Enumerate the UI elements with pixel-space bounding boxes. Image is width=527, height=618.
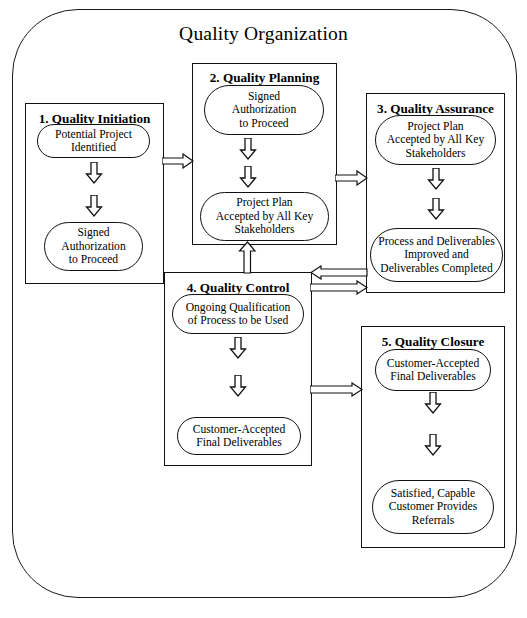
phase-title-quality-closure: 5. Quality Closure — [362, 335, 504, 349]
connector-control-to-closure — [310, 382, 363, 397]
node-signed-authorization-to-proceed-planning[interactable]: Signed Authorization to Proceed — [204, 85, 324, 135]
arrow-down-initiation-b — [85, 195, 103, 217]
node-process-and-deliverables-improved[interactable]: Process and Deliverables Improved and De… — [370, 228, 503, 282]
arrow-down-closure-a — [424, 392, 442, 414]
node-project-plan-accepted-assurance[interactable]: Project Plan Accepted by All Key Stakeho… — [375, 115, 496, 165]
arrow-down-control-b — [229, 375, 247, 397]
node-label: Potential Project Identified — [44, 128, 143, 155]
connector-control-to-planning — [238, 241, 257, 274]
node-satisfied-capable-customer-provides-referrals[interactable]: Satisfied, Capable Customer Provides Ref… — [372, 480, 494, 534]
node-label: Project Plan Accepted by All Key Stakeho… — [382, 120, 489, 160]
connector-planning-to-assurance — [335, 170, 368, 186]
node-project-plan-accepted-planning[interactable]: Project Plan Accepted by All Key Stakeho… — [200, 192, 329, 241]
node-label: Process and Deliverables Improved and De… — [377, 235, 496, 275]
node-label: Project Plan Accepted by All Key Stakeho… — [207, 196, 322, 236]
arrow-down-control-a — [229, 337, 247, 359]
node-label: Signed Authorization to Proceed — [51, 226, 136, 266]
arrow-down-initiation-a — [85, 162, 103, 184]
arrow-down-assurance-a — [427, 168, 445, 190]
arrow-down-planning-a — [239, 138, 257, 160]
diagram-title: Quality Organization — [0, 24, 527, 44]
phase-title-quality-assurance: 3. Quality Assurance — [367, 102, 504, 116]
node-label: Customer-Accepted Final Deliverables — [382, 357, 484, 384]
node-ongoing-qualification-of-process[interactable]: Ongoing Qualification of Process to be U… — [172, 294, 304, 334]
node-label: Ongoing Qualification of Process to be U… — [179, 301, 297, 328]
arrow-down-assurance-b — [427, 198, 445, 220]
arrow-down-planning-b — [239, 166, 257, 188]
connector-assurance-to-control — [310, 265, 368, 280]
node-customer-accepted-final-deliverables-control[interactable]: Customer-Accepted Final Deliverables — [177, 417, 301, 455]
arrow-down-closure-b — [424, 434, 442, 456]
connector-initiation-to-planning — [162, 153, 194, 169]
node-label: Satisfied, Capable Customer Provides Ref… — [379, 487, 487, 527]
node-label: Customer-Accepted Final Deliverables — [184, 423, 294, 450]
connector-control-to-assurance — [310, 280, 368, 295]
node-potential-project-identified[interactable]: Potential Project Identified — [37, 124, 150, 158]
node-label: Signed Authorization to Proceed — [211, 90, 317, 130]
diagram-canvas: Quality Organization 1. Quality Initiati… — [0, 0, 527, 618]
phase-title-quality-control: 4. Quality Control — [165, 281, 311, 295]
node-signed-authorization-to-proceed-initiation[interactable]: Signed Authorization to Proceed — [44, 222, 143, 271]
node-customer-accepted-final-deliverables-closure[interactable]: Customer-Accepted Final Deliverables — [375, 349, 491, 391]
phase-title-quality-planning: 2. Quality Planning — [193, 71, 336, 85]
